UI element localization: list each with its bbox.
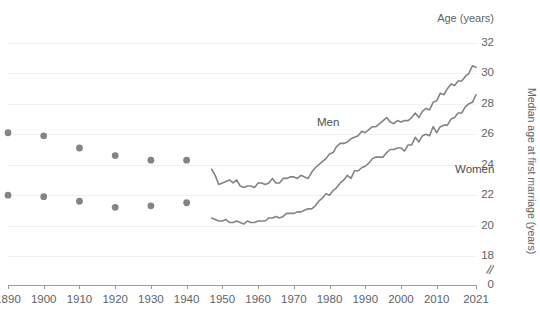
data-point-women-1930	[148, 202, 155, 209]
data-point-women-1940	[183, 199, 190, 206]
data-point-men-1930	[148, 157, 155, 164]
data-point-men-1920	[112, 152, 119, 159]
series-label-men: Men	[317, 116, 339, 128]
series-line-women	[212, 95, 476, 224]
series-line-men	[212, 66, 476, 188]
y-tick-label-18: 18	[454, 250, 494, 261]
series-label-women: Women	[455, 163, 494, 175]
data-point-women-1900	[40, 193, 47, 200]
y-tick-label-20: 20	[454, 220, 494, 231]
x-tick-label-2021: 2021	[454, 293, 498, 305]
y-tick-label-28: 28	[454, 98, 494, 109]
data-point-men-1910	[76, 145, 83, 152]
data-point-women-1910	[76, 198, 83, 205]
y-tick-label-32: 32	[454, 37, 494, 48]
data-point-women-1920	[112, 204, 119, 211]
y-tick-label-22: 22	[454, 189, 494, 200]
data-point-women-1890	[5, 192, 12, 199]
chart-container: Age (years) Median age at first marriage…	[0, 0, 540, 323]
data-point-men-1940	[183, 157, 190, 164]
y-tick-label-30: 30	[454, 67, 494, 78]
x-tick-label-2010: 2010	[415, 293, 459, 305]
data-point-men-1890	[5, 129, 12, 136]
y-tick-label-zero: 0	[454, 279, 494, 290]
plot-area: 3230282624222018 18901900191019201930194…	[0, 0, 540, 323]
x-axis-line	[8, 285, 476, 286]
data-point-men-1900	[40, 132, 47, 139]
y-tick-label-26: 26	[454, 128, 494, 139]
